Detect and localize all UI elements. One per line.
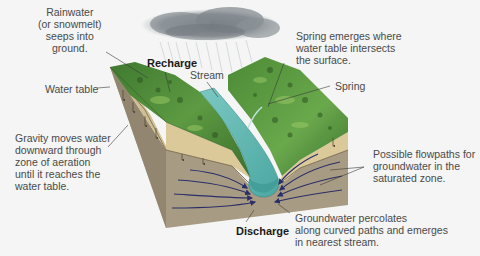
spring-emerges-label: Spring emerges where water table interse… bbox=[296, 30, 402, 66]
rainwater-label: Rainwater (or snowmelt) seeps into groun… bbox=[38, 6, 102, 54]
flowpaths-label: Possible flowpaths for groundwater in th… bbox=[373, 148, 475, 184]
recharge-label: Recharge bbox=[147, 57, 197, 69]
stream-label: Stream bbox=[190, 69, 224, 81]
spring-label: Spring bbox=[335, 80, 365, 92]
discharge-label: Discharge bbox=[236, 225, 289, 237]
water-table-label: Water table bbox=[45, 83, 98, 95]
groundwater-diagram: Rainwater (or snowmelt) seeps into groun… bbox=[0, 0, 480, 256]
percolates-label: Groundwater percolates along curved path… bbox=[295, 212, 448, 248]
gravity-label: Gravity moves water downward through zon… bbox=[15, 132, 111, 192]
